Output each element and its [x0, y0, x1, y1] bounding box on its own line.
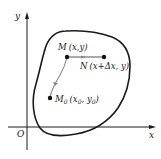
- y-axis-arrow-icon: [25, 12, 29, 19]
- label-n: N(x+Δx, y): [79, 61, 129, 71]
- label-m0: M0(x0, y0): [54, 94, 99, 105]
- origin-label: O: [17, 129, 25, 139]
- label-m: M(x,y): [57, 42, 88, 52]
- x-axis-label: x: [149, 130, 154, 140]
- y-axis-label: y: [14, 11, 21, 21]
- point-m0: [48, 96, 52, 100]
- x-axis-arrow-icon: [149, 125, 156, 129]
- point-n: [102, 55, 106, 59]
- diagram-svg: y x O M(x,y) N(x+Δx, y) M0(x0, y0): [0, 0, 161, 159]
- segment-arrow-icon: [81, 56, 86, 59]
- path-m0-to-m: [50, 57, 67, 97]
- point-m: [65, 55, 69, 59]
- diagram-canvas: y x O M(x,y) N(x+Δx, y) M0(x0, y0): [0, 0, 161, 159]
- axes: [8, 12, 156, 150]
